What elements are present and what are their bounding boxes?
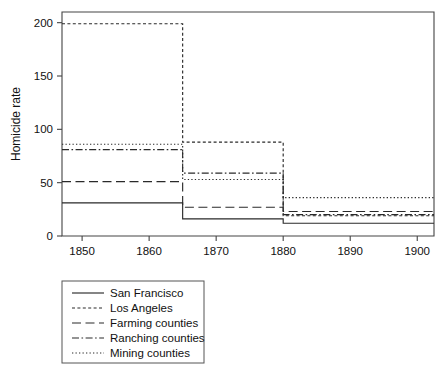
y-tick-label: 100	[34, 123, 53, 135]
x-tick-label: 1880	[270, 245, 296, 257]
legend-label-mining-counties: Mining counties	[110, 347, 190, 359]
legend: San FranciscoLos AngelesFarming counties…	[62, 281, 205, 363]
series-line-los-angeles	[62, 24, 434, 216]
series-lines	[62, 24, 434, 223]
x-tick-label: 1870	[203, 245, 229, 257]
x-tick-label: 1850	[69, 245, 95, 257]
y-tick-label: 0	[47, 230, 53, 242]
y-axis-ticks: 050100150200	[34, 17, 62, 242]
legend-entries: San FranciscoLos AngelesFarming counties…	[72, 287, 205, 359]
x-axis-ticks: 185018601870188018901900	[69, 236, 430, 257]
y-axis-title: Homicide rate	[9, 87, 23, 161]
chart-figure: 050100150200 185018601870188018901900 Ho…	[0, 0, 446, 380]
legend-label-farming-counties: Farming counties	[110, 317, 198, 329]
series-line-farming-counties	[62, 182, 434, 212]
x-tick-label: 1900	[404, 245, 430, 257]
y-tick-label: 200	[34, 17, 53, 29]
x-tick-label: 1890	[337, 245, 363, 257]
legend-label-los-angeles: Los Angeles	[110, 302, 173, 314]
series-line-san-francisco	[62, 203, 434, 223]
x-tick-label: 1860	[136, 245, 162, 257]
homicide-rate-line-chart: 050100150200 185018601870188018901900 Ho…	[0, 0, 446, 380]
y-tick-label: 50	[40, 177, 53, 189]
legend-label-ranching-counties: Ranching counties	[110, 332, 205, 344]
series-line-mining-counties	[62, 144, 434, 197]
legend-label-san-francisco: San Francisco	[110, 287, 184, 299]
y-tick-label: 150	[34, 70, 53, 82]
